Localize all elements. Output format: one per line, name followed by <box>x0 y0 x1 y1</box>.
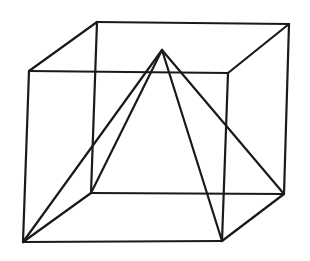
cube-back-left <box>91 22 97 193</box>
cube-back-right <box>284 24 289 194</box>
wireframe-svg <box>0 0 310 261</box>
cube-pyramid-drawing <box>0 0 310 261</box>
cube-front-bottom <box>23 241 222 242</box>
cube-depth-bl <box>23 193 91 242</box>
cube-back-bottom <box>91 193 284 194</box>
cube-front-right <box>222 73 228 241</box>
cube-depth-br <box>222 194 284 241</box>
cube-depth-tl <box>29 22 97 71</box>
pyramid-edge-front-left <box>23 50 162 242</box>
pyramid-edge-back-right <box>162 50 284 194</box>
cube-depth-tr <box>228 24 289 73</box>
cube-front-top <box>29 71 228 73</box>
pyramid-edge-front-right <box>162 50 222 241</box>
cube-back-top <box>97 22 289 24</box>
cube-front-left <box>23 71 29 242</box>
